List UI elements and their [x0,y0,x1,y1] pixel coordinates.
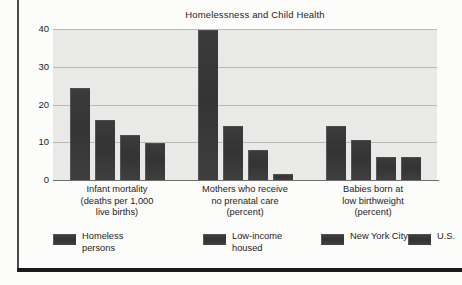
category-label-line: Mothers who receive [181,184,309,196]
category-label-line: Babies born at [309,184,437,196]
gridline-30 [53,67,437,68]
y-axis-tick-labels: 010203040 [0,29,49,181]
bar [248,150,268,180]
category-label-line: no prenatal care [181,196,309,208]
category-label-line: low birthweight [309,196,437,208]
legend-label-line: New York City [350,231,408,243]
y-tick-label-10: 10 [3,136,49,147]
category-label-line: (percent) [181,207,309,219]
x-axis-baseline [53,180,439,181]
bar [198,30,218,180]
bar [70,88,90,180]
bar [326,126,346,180]
bar [351,140,371,180]
category-label-1: Infant mortality(deaths per 1,000live bi… [53,184,181,219]
figure-root: Homelessness and Child Health 010203040 … [0,0,462,285]
chart-legend: HomelesspersonsLow-incomehousedNew York … [53,231,443,261]
legend-swatch-icon [53,234,76,245]
category-label-2: Mothers who receiveno prenatal care(perc… [181,184,309,219]
bar [401,157,421,180]
legend-label-line: Low-income [232,231,282,243]
category-label-line: (percent) [309,207,437,219]
legend-label-line: housed [232,243,282,255]
legend-swatch-icon [408,234,431,245]
legend-label: U.S. [437,231,455,243]
legend-label: New York City [350,231,408,243]
category-label-line: (deaths per 1,000 [53,196,181,208]
y-tick-label-30: 30 [3,61,49,72]
legend-label-line: Homeless [82,231,123,243]
plot-area [53,29,437,180]
category-label-line: Infant mortality [53,184,181,196]
legend-swatch-icon [321,234,344,245]
gridline-20 [53,105,437,106]
gridline-40 [53,29,437,30]
bar [95,120,115,180]
chart-title: Homelessness and Child Health [60,9,450,20]
legend-swatch-icon [203,234,226,245]
legend-label: Homelesspersons [82,231,123,254]
frame-bottom-rule [17,268,462,272]
category-label-3: Babies born atlow birthweight(percent) [309,184,437,219]
legend-label-line: persons [82,243,123,255]
x-axis-category-labels: Infant mortality(deaths per 1,000live bi… [53,184,437,228]
bar [223,126,243,180]
bar [145,143,165,180]
legend-label: Low-incomehoused [232,231,282,254]
bar [120,135,140,180]
category-label-line: live births) [53,207,181,219]
y-tick-label-40: 40 [3,23,49,34]
legend-label-line: U.S. [437,231,455,243]
y-tick-label-0: 0 [3,174,49,185]
bar [376,157,396,180]
y-tick-label-20: 20 [3,99,49,110]
